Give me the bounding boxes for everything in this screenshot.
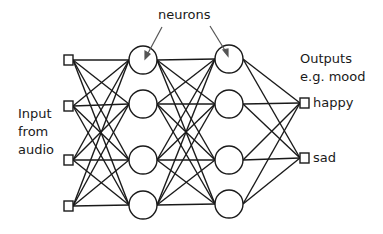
connections <box>73 59 300 206</box>
arrow-to-hidden2 <box>210 26 226 52</box>
output-label-happy: happy <box>313 94 353 111</box>
output-node-happy <box>300 98 309 108</box>
input-node <box>64 201 73 211</box>
neuron <box>129 146 157 174</box>
neuron <box>215 45 243 73</box>
output-label-sad: sad <box>313 149 336 166</box>
neuron <box>129 46 157 74</box>
hidden1-hidden2-edges <box>157 59 215 205</box>
neuron <box>129 191 157 219</box>
output-node-sad <box>300 153 309 163</box>
input-label-line1: Input <box>18 105 52 122</box>
input-hidden1-edges <box>73 60 129 206</box>
input-node <box>64 55 73 65</box>
neuron <box>215 90 243 118</box>
input-nodes <box>64 55 73 211</box>
arrow-to-hidden1 <box>147 27 162 55</box>
input-label-line3: audio <box>18 141 54 158</box>
input-node <box>64 155 73 165</box>
network-diagram <box>0 0 383 234</box>
input-node <box>64 101 73 111</box>
input-label-line2: from <box>18 123 48 140</box>
neurons-label: neurons <box>158 6 211 23</box>
hidden-layer-2 <box>215 45 243 218</box>
neuron <box>215 146 243 174</box>
outputs-label-line1: Outputs <box>300 50 352 67</box>
outputs-label-line2: e.g. mood <box>300 68 365 85</box>
hidden-layer-1 <box>129 46 157 219</box>
hidden2-output-edges <box>243 59 300 204</box>
output-nodes <box>300 98 309 163</box>
neuron <box>129 90 157 118</box>
neuron <box>215 190 243 218</box>
